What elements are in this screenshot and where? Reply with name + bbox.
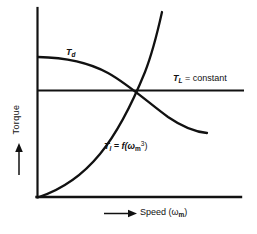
- x-axis-label-text: Speed: [140, 207, 166, 217]
- annotation-td-subscript: d: [72, 51, 76, 58]
- x-axis-label: Speed (ωm): [140, 208, 187, 219]
- chart-plot-area: [0, 0, 257, 234]
- annotation-developed-torque: Td: [66, 48, 75, 59]
- annotation-tcubic-close-paren: ): [144, 141, 147, 151]
- x-axis-label-symbol: (ω: [169, 207, 179, 217]
- x-axis-arrow-icon: [104, 210, 137, 218]
- y-axis-arrow-icon: [15, 143, 23, 175]
- annotation-load-torque-constant: TL = constant: [173, 74, 227, 85]
- annotation-load-torque-cubic: Tl = f(ωm3): [104, 141, 147, 153]
- y-axis-label-text: Torque: [11, 105, 21, 135]
- annotation-tcubic-equation: = f(ω: [111, 141, 135, 151]
- annotation-tl-text: = constant: [182, 73, 226, 83]
- y-axis-label: Torque: [12, 96, 21, 144]
- torque-speed-chart: Td TL = constant Tl = f(ωm3) Speed (ωm) …: [0, 0, 257, 234]
- x-axis-label-close: ): [184, 207, 187, 217]
- curve-load-torque-cubic: [39, 12, 162, 197]
